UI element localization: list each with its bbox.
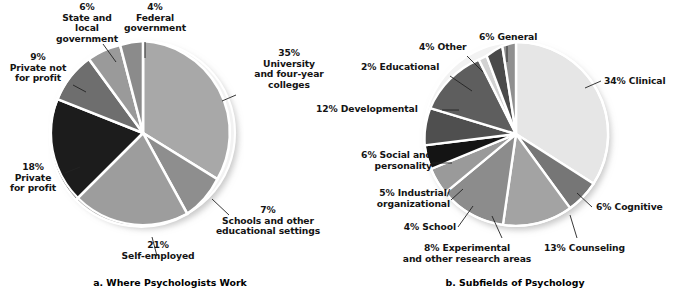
label-general: 6% General xyxy=(479,32,559,43)
figure-pie-charts: 6% State and local government 4% Federal… xyxy=(0,0,680,298)
label-other: 4% Other xyxy=(419,42,483,53)
label-social-and-personality: 6% Social and personality xyxy=(346,150,432,171)
chart-panel-b: 6% General 4% Other 2% Educational 12% D… xyxy=(340,0,680,298)
label-schools-educational-settings: 7% Schools and other educational setting… xyxy=(196,205,340,237)
chart-panel-a: 6% State and local government 4% Federal… xyxy=(0,0,340,298)
label-developmental: 12% Developmental xyxy=(316,104,444,115)
label-private-for-profit: 18% Private for profit xyxy=(0,162,66,194)
label-experimental-research-areas: 8% Experimental and other research areas xyxy=(392,243,542,264)
label-cognitive: 6% Cognitive xyxy=(596,202,676,213)
caption-panel-a: a. Where Psychologists Work xyxy=(50,277,290,288)
caption-panel-b: b. Subfields of Psychology xyxy=(400,277,630,288)
label-university-colleges: 35% University and four-year colleges xyxy=(238,48,340,90)
label-clinical: 34% Clinical xyxy=(604,76,680,87)
label-self-employed: 21% Self-employed xyxy=(108,240,208,261)
label-private-not-for-profit: 9% Private not for profit xyxy=(0,52,76,84)
label-educational: 2% Educational xyxy=(361,62,457,73)
label-federal-government: 4% Federal government xyxy=(112,2,198,34)
label-school: 4% School xyxy=(380,222,456,233)
label-industrial-organizational: 5% Industrial/ organizational xyxy=(356,188,450,209)
label-counseling: 13% Counseling xyxy=(544,243,632,254)
